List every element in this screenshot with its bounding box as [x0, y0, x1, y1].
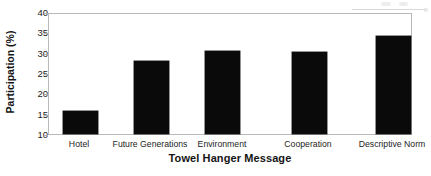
x-axis-title: Towel Hanger Message [48, 152, 412, 164]
y-tick-mark [44, 135, 48, 136]
x-tick-label-environment: Environment [198, 139, 247, 149]
bar-hotel [63, 111, 98, 134]
plot-area [48, 13, 412, 135]
x-tick-label-descriptive-norm: Descriptive Norm [359, 139, 426, 149]
bar-chart: Participation (%) 40 35 30 25 20 15 10 H… [0, 0, 431, 176]
x-tick-label-future-generations: Future Generations [113, 139, 188, 149]
bar-future-generations [134, 61, 169, 134]
bar-descriptive-norm [376, 36, 411, 134]
bar-cooperation [292, 52, 327, 134]
bars-layer [49, 14, 411, 134]
x-tick-label-cooperation: Cooperation [284, 139, 331, 149]
x-tick-label-hotel: Hotel [69, 139, 89, 149]
bar-environment [205, 51, 240, 134]
